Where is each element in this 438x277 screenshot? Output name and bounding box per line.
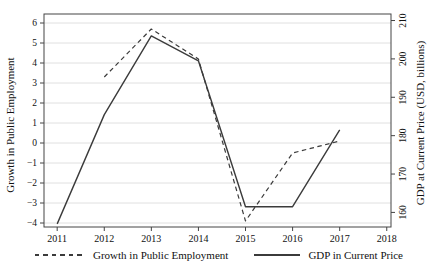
svg-text:−4: −4: [27, 218, 37, 228]
gridlines: [44, 23, 391, 223]
chart-canvas: −4−3−2−101234561601701801902002102011201…: [0, 0, 438, 277]
legend-item-gdp: GDP in Current Price: [254, 249, 403, 261]
svg-text:210: 210: [398, 13, 408, 28]
svg-text:0: 0: [32, 138, 37, 148]
svg-text:3: 3: [32, 78, 37, 88]
svg-text:2: 2: [32, 98, 37, 108]
svg-text:−2: −2: [27, 178, 37, 188]
svg-text:2016: 2016: [283, 233, 303, 244]
svg-text:2013: 2013: [141, 233, 161, 244]
legend-item-growth: Growth in Public Employment: [35, 249, 228, 261]
x-axis-ticks: 20112012201320142015201620172018: [47, 227, 396, 244]
left-axis-ticks: −4−3−2−10123456: [27, 18, 44, 228]
svg-text:2015: 2015: [236, 233, 256, 244]
series-line-gdp: [57, 36, 340, 224]
svg-text:190: 190: [398, 90, 408, 105]
left-axis-title: Growth in Public Employment: [4, 57, 16, 192]
svg-text:2014: 2014: [188, 233, 208, 244]
svg-text:4: 4: [32, 58, 37, 68]
legend-label-gdp: GDP in Current Price: [308, 249, 403, 261]
legend: Growth in Public Employment GDP in Curre…: [0, 249, 438, 261]
right-axis-title: GDP at Current Price (USD, billions): [414, 41, 426, 206]
svg-text:160: 160: [398, 205, 408, 220]
chart-figure: −4−3−2−101234561601701801902002102011201…: [0, 0, 438, 277]
svg-text:2011: 2011: [47, 233, 67, 244]
svg-text:−3: −3: [27, 198, 37, 208]
svg-text:2012: 2012: [94, 233, 114, 244]
series-line-growth: [104, 29, 339, 221]
legend-label-growth: Growth in Public Employment: [93, 249, 228, 261]
dashed-line-sample-icon: [35, 254, 85, 257]
svg-text:5: 5: [32, 38, 37, 48]
svg-text:6: 6: [32, 18, 37, 28]
svg-text:2018: 2018: [377, 233, 397, 244]
svg-text:200: 200: [398, 52, 408, 67]
right-axis-ticks: 160170180190200210: [391, 13, 408, 219]
svg-text:170: 170: [398, 167, 408, 182]
svg-text:1: 1: [32, 118, 37, 128]
svg-text:180: 180: [398, 128, 408, 143]
svg-text:−1: −1: [27, 158, 37, 168]
solid-line-sample-icon: [254, 254, 300, 256]
svg-text:2017: 2017: [330, 233, 350, 244]
